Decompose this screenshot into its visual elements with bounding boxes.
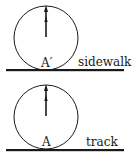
ground-line-track [6,149,124,151]
contact-point-label: A′ [40,56,53,70]
surface-label: sidewalk [78,55,132,69]
contact-point-label: A [41,135,51,149]
arrow-head-mid [44,16,47,22]
ground-line-sidewalk [6,69,124,71]
surface-label: track [86,135,118,149]
panel-track: A track [6,84,124,151]
panel-sidewalk: A′ sidewalk [6,5,132,71]
arrow-head-mid [44,95,47,101]
diagram-canvas: A′ sidewalk A track [0,0,134,160]
